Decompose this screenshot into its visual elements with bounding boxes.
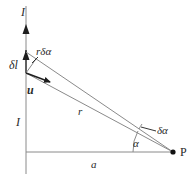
diagram-svg: I δl rδα u I r a α δα P: [0, 0, 196, 181]
biot-savart-diagram: I δl rδα u I r a α δα P: [0, 0, 196, 181]
current-label-mid: I: [15, 115, 21, 129]
current-label-top: I: [20, 5, 26, 19]
delta-alpha-label: δα: [157, 124, 168, 136]
current-arrow-icon: [23, 24, 30, 34]
distance-r-label: r: [78, 105, 83, 117]
r-line-bottom: [26, 73, 173, 152]
r-line-top: [26, 52, 173, 152]
perp-distance-label: a: [91, 158, 97, 170]
unit-vector-arrow-icon: [26, 73, 50, 82]
angle-alpha-label: α: [133, 137, 139, 149]
r-dalpha-label: rδα: [36, 45, 51, 57]
element-label: δl: [9, 58, 19, 72]
unit-vector-label: u: [27, 83, 34, 97]
point-p-dot: [170, 149, 175, 154]
delta-alpha-arc: [139, 124, 142, 129]
delta-alpha-pointer: [141, 127, 156, 131]
point-p-label: P: [180, 145, 187, 159]
